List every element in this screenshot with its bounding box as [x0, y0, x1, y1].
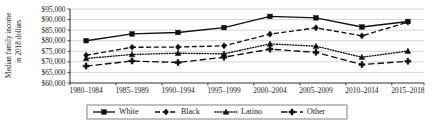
- line-chart: $60,000$65,000$70,000$75,000$80,000$85,0…: [0, 0, 434, 129]
- chart-legend: WhiteBlackLatinoOther: [87, 105, 347, 119]
- square-marker: [222, 25, 227, 30]
- legend-label-other: Other: [307, 107, 326, 116]
- square-marker: [130, 32, 135, 37]
- y-tick-label: $75,000: [41, 47, 65, 56]
- data-series-layer: [83, 14, 411, 69]
- square-marker: [360, 25, 365, 30]
- x-tick-label: 2010–2014: [345, 86, 379, 95]
- cross-marker: [83, 63, 89, 69]
- x-tick-label: 2005–2009: [299, 86, 333, 95]
- y-tick-label: $90,000: [41, 15, 65, 24]
- cross-marker: [129, 58, 135, 64]
- y-axis-tick-labels: $60,000$65,000$70,000$75,000$80,000$85,0…: [41, 5, 65, 88]
- diamond-marker: [221, 43, 226, 49]
- x-tick-label: 2015–2018: [391, 86, 425, 95]
- chart-figure: $60,000$65,000$70,000$75,000$80,000$85,0…: [0, 0, 434, 129]
- y-axis-title: Median family income in 2018 dollars: [5, 13, 23, 78]
- x-tick-label: 1990–1994: [161, 86, 195, 95]
- y-tick-label: $60,000: [41, 79, 65, 88]
- square-marker: [176, 30, 181, 35]
- x-axis-tick-labels: 1980–19841985–19891990–19941995–19992000…: [69, 86, 424, 95]
- y-tick-label: $70,000: [41, 57, 65, 66]
- square-marker: [268, 14, 273, 19]
- x-tick-label: 1995–1999: [207, 86, 241, 95]
- legend-label-black: Black: [181, 107, 200, 116]
- y-tick-label: $85,000: [41, 26, 65, 35]
- series-white: [84, 14, 410, 43]
- square-marker: [314, 16, 319, 21]
- diamond-marker: [267, 31, 272, 37]
- y-axis-title-line-1: Median family income: [5, 13, 13, 78]
- triangle-marker: [405, 48, 411, 53]
- x-tick-label: 1985–1989: [115, 86, 149, 95]
- y-tick-label: $65,000: [41, 68, 65, 77]
- y-tick-label: $80,000: [41, 36, 65, 45]
- y-tick-label: $95,000: [41, 5, 65, 14]
- cross-marker: [175, 59, 181, 65]
- square-marker: [84, 38, 89, 43]
- axes: [68, 9, 425, 86]
- diamond-marker: [130, 44, 135, 50]
- x-tick-label: 1980–1984: [69, 86, 103, 95]
- legend-label-white: White: [119, 107, 139, 116]
- y-axis-title-line-2: in 2018 dollars: [15, 20, 23, 63]
- gridlines: [70, 9, 424, 72]
- legend-label-latino: Latino: [241, 107, 262, 116]
- diamond-marker: [359, 33, 364, 39]
- cross-marker: [359, 62, 365, 68]
- square-marker: [102, 110, 107, 115]
- cross-marker: [313, 49, 319, 55]
- diamond-marker: [175, 44, 180, 50]
- cross-marker: [405, 58, 411, 64]
- x-tick-label: 2000–2004: [253, 86, 287, 95]
